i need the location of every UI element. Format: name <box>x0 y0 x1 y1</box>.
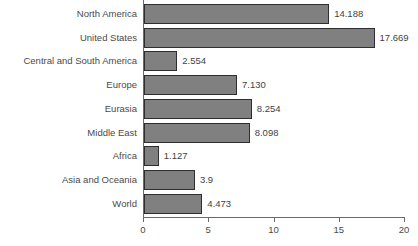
bar-row: 8.254 <box>144 99 405 119</box>
bar-row: 3.9 <box>144 170 405 190</box>
bar-value-label: 8.254 <box>257 103 281 114</box>
bar <box>144 51 177 71</box>
x-axis-tick-label: 20 <box>399 224 410 235</box>
category-label: Central and South America <box>23 55 137 66</box>
bar <box>144 194 202 214</box>
bar <box>144 75 237 95</box>
category-label: Middle East <box>87 127 137 138</box>
bar-value-label: 8.098 <box>255 127 279 138</box>
bar-value-label: 2.554 <box>182 55 206 66</box>
bar <box>144 4 329 24</box>
x-axis-tick <box>143 217 144 222</box>
bar-row: 4.473 <box>144 194 405 214</box>
bar <box>144 99 252 119</box>
category-label: Eurasia <box>105 103 137 114</box>
bar <box>144 123 250 143</box>
bar-row: 14.188 <box>144 4 405 24</box>
bar <box>144 28 375 48</box>
bar-row: 1.127 <box>144 146 405 166</box>
x-axis-tick-label: 15 <box>333 224 344 235</box>
x-axis-tick-label: 5 <box>206 224 211 235</box>
bar-row: 7.130 <box>144 75 405 95</box>
category-axis-labels: North AmericaUnited StatesCentral and So… <box>0 0 140 217</box>
x-axis-tick-label: 10 <box>268 224 279 235</box>
category-label: Africa <box>113 150 137 161</box>
category-label: Asia and Oceania <box>62 174 137 185</box>
bar-chart: North AmericaUnited StatesCentral and So… <box>0 0 418 246</box>
x-axis-tick <box>208 217 209 222</box>
bar-row: 8.098 <box>144 123 405 143</box>
category-label: World <box>112 198 137 209</box>
bar <box>144 170 195 190</box>
bar-value-label: 14.188 <box>334 8 363 19</box>
x-axis-tick <box>339 217 340 222</box>
category-label: Europe <box>106 79 137 90</box>
x-axis-tick <box>404 217 405 222</box>
category-label: United States <box>80 32 137 43</box>
x-axis-tick-label: 0 <box>140 224 145 235</box>
plot-area: 14.18817.6692.5547.1308.2548.0981.1273.9… <box>143 0 418 217</box>
bar-value-label: 17.669 <box>380 32 409 43</box>
bar-value-label: 4.473 <box>207 198 231 209</box>
bar-value-label: 3.9 <box>200 174 213 185</box>
bar-row: 17.669 <box>144 28 405 48</box>
x-axis: 05101520 <box>143 217 404 246</box>
category-label: North America <box>77 8 137 19</box>
bar-row: 2.554 <box>144 51 405 71</box>
bar <box>144 146 159 166</box>
bar-value-label: 1.127 <box>164 150 188 161</box>
bar-value-label: 7.130 <box>242 79 266 90</box>
x-axis-tick <box>274 217 275 222</box>
